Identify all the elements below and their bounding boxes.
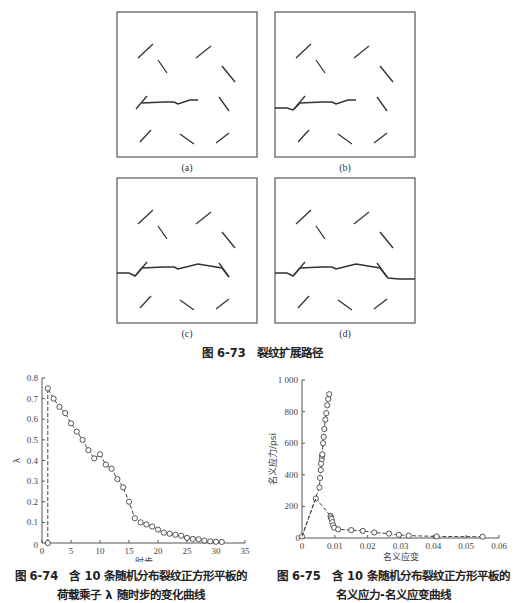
data-point-marker <box>103 462 108 467</box>
figure-673-caption: 图 6-73 裂纹扩展路径 <box>0 344 525 360</box>
y-tick-label: 0.6 <box>27 414 39 424</box>
lambda-chart-plot: 051015202530350.10.20.30.40.50.60.70.80时… <box>0 372 260 562</box>
data-point-marker <box>74 429 79 434</box>
crack-panel-a: (a) <box>116 11 258 158</box>
crack-panel-b: (b) <box>274 11 416 158</box>
panel-label-d: (d) <box>315 328 375 339</box>
y-tick-label: 200 <box>285 501 299 511</box>
x-tick-label: 0.04 <box>425 541 441 551</box>
data-point-marker <box>299 534 304 539</box>
x-tick-label: 0.05 <box>458 541 474 551</box>
data-point-marker <box>45 386 50 391</box>
data-point-marker <box>219 539 224 544</box>
data-point-marker <box>434 534 439 539</box>
data-point-marker <box>317 485 322 490</box>
data-point-marker <box>360 528 365 533</box>
data-point-marker <box>202 538 207 543</box>
x-tick-label: 5 <box>69 546 74 556</box>
panel-label-b: (b) <box>315 162 375 173</box>
x-tick-label: 0 <box>40 546 45 556</box>
data-point-marker <box>121 485 126 490</box>
crack-panel-d: (d) <box>274 177 416 324</box>
crack-diagram-d <box>274 177 416 324</box>
data-point-marker <box>184 535 189 540</box>
data-point-marker <box>336 527 341 532</box>
x-axis-label: 时步 <box>135 556 153 562</box>
data-point-marker <box>208 539 213 544</box>
data-point-marker <box>325 403 330 408</box>
y-tick-label: 0.7 <box>27 394 39 404</box>
x-tick-label: 20 <box>154 546 164 556</box>
data-point-marker <box>155 527 160 532</box>
data-point-marker <box>190 536 195 541</box>
x-tick-label: 35 <box>241 546 251 556</box>
data-point-marker <box>323 417 328 422</box>
lambda-chart: 051015202530350.10.20.30.40.50.60.70.80时… <box>0 372 260 566</box>
data-point-marker <box>45 540 50 545</box>
x-tick-label: 0.01 <box>327 541 343 551</box>
y-tick-label: 1 000 <box>278 375 299 385</box>
y-tick-label: 0.4 <box>27 456 39 466</box>
origin-label: 0 <box>34 540 39 550</box>
data-point-marker <box>372 530 377 535</box>
x-tick-label: 30 <box>212 546 222 556</box>
y-tick-label: 600 <box>285 438 299 448</box>
x-axis-label: 名义应变 <box>383 551 419 562</box>
y-tick-label: 0.3 <box>27 476 39 486</box>
data-point-marker <box>317 475 322 480</box>
data-point-marker <box>97 452 102 457</box>
data-point-marker <box>115 476 120 481</box>
data-point-marker <box>320 441 325 446</box>
data-point-marker <box>349 528 354 533</box>
data-point-marker <box>92 456 97 461</box>
crack-diagram-a <box>116 11 258 158</box>
crack-diagram-c <box>116 177 258 324</box>
y-tick-label: 0.2 <box>27 497 38 507</box>
y-axis-label: λ <box>12 457 22 463</box>
x-tick-label: 0.06 <box>491 541 507 551</box>
y-axis-label: 名义应力/psi <box>267 433 278 485</box>
figure-675-caption-line1: 图 6-75 含 10 条随机分布裂纹正方形平板的 <box>262 567 525 583</box>
data-point-marker <box>318 467 323 472</box>
figure-675-caption-line2: 名义应力-名义应变曲线 <box>262 586 525 602</box>
stress-strain-chart: 00.010.020.030.040.050.0602004006008001 … <box>262 372 525 566</box>
x-tick-label: 25 <box>183 546 193 556</box>
data-point-marker <box>150 524 155 529</box>
data-line <box>316 499 483 537</box>
x-tick-label: 0.02 <box>360 541 376 551</box>
panel-label-a: (a) <box>157 162 217 173</box>
data-point-marker <box>322 426 327 431</box>
data-point-marker <box>138 520 143 525</box>
data-point-marker <box>320 452 325 457</box>
data-point-marker <box>63 410 68 415</box>
data-point-marker <box>179 533 184 538</box>
data-point-marker <box>57 404 62 409</box>
figure-674-caption-line2: 荷载乘子 λ 随时步的变化曲线 <box>0 586 262 602</box>
data-point-marker <box>144 522 149 527</box>
data-point-marker <box>161 530 166 535</box>
data-point-marker <box>396 532 401 537</box>
y-tick-label: 800 <box>285 407 299 417</box>
unloading-line <box>302 499 316 537</box>
data-point-marker <box>196 537 201 542</box>
data-point-marker <box>167 531 172 536</box>
data-point-marker <box>86 448 91 453</box>
y-tick-label: 0.1 <box>27 517 38 527</box>
y-tick-label: 0.8 <box>27 373 39 383</box>
stress-strain-chart-plot: 00.010.020.030.040.050.0602004006008001 … <box>262 372 525 562</box>
data-point-marker <box>51 396 56 401</box>
data-point-marker <box>126 499 131 504</box>
data-point-marker <box>68 421 73 426</box>
y-tick-label: 400 <box>285 470 299 480</box>
crack-diagram-b <box>274 11 416 158</box>
y-tick-label: 0.5 <box>27 435 39 445</box>
data-point-marker <box>213 539 218 544</box>
data-point-marker <box>109 466 114 471</box>
x-tick-label: 0.03 <box>393 541 409 551</box>
data-point-marker <box>313 496 318 501</box>
data-point-marker <box>327 392 332 397</box>
data-point-marker <box>80 437 85 442</box>
panel-label-c: (c) <box>157 328 217 339</box>
crack-panel-c: (c) <box>116 177 258 324</box>
data-point-marker <box>480 534 485 539</box>
